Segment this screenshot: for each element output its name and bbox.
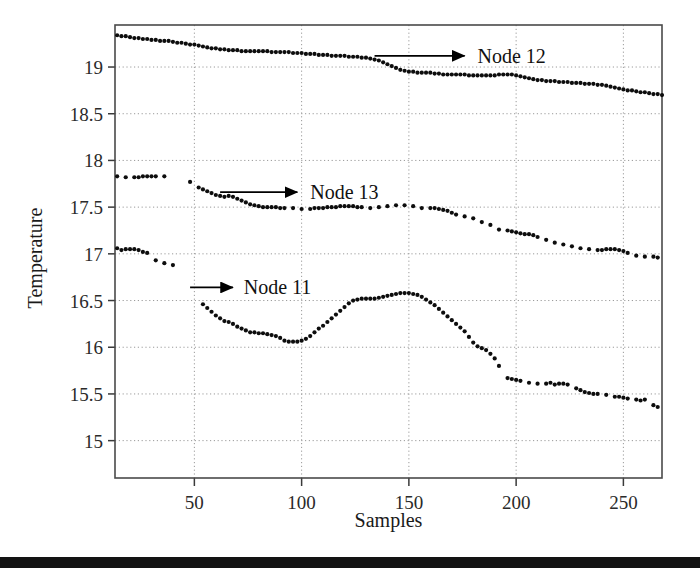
data-point <box>291 340 295 344</box>
data-point <box>463 329 467 333</box>
data-point <box>411 292 415 296</box>
data-point <box>300 51 304 55</box>
data-point <box>347 204 351 208</box>
data-point <box>291 206 295 210</box>
data-point <box>197 185 201 189</box>
data-point <box>518 74 522 78</box>
data-point <box>497 72 501 76</box>
data-point <box>634 397 638 401</box>
data-point <box>531 233 535 237</box>
data-point <box>656 92 660 96</box>
data-point <box>308 52 312 56</box>
data-point <box>531 77 535 81</box>
data-point <box>450 211 454 215</box>
data-point <box>450 72 454 76</box>
data-point <box>128 247 132 251</box>
data-point <box>510 377 514 381</box>
data-point <box>578 81 582 85</box>
data-point <box>463 214 467 218</box>
data-point <box>626 397 630 401</box>
x-tick-label: 50 <box>185 492 204 513</box>
data-point <box>480 220 484 224</box>
data-point <box>390 64 394 68</box>
data-point <box>638 90 642 94</box>
data-point <box>600 248 604 252</box>
data-point <box>265 205 269 209</box>
data-point <box>604 393 608 397</box>
data-point <box>428 71 432 75</box>
data-point <box>124 175 128 179</box>
data-point <box>540 78 544 82</box>
data-point <box>330 205 334 209</box>
data-point <box>274 205 278 209</box>
data-point <box>231 322 235 326</box>
data-point <box>566 80 570 84</box>
data-point <box>334 312 338 316</box>
data-point <box>222 319 226 323</box>
x-tick-label: 100 <box>287 492 316 513</box>
data-point <box>222 195 226 199</box>
data-point <box>295 340 299 344</box>
y-tick-label: 19 <box>84 57 103 78</box>
series-node-13 <box>115 174 660 259</box>
data-point <box>591 392 595 396</box>
y-tick-label: 18 <box>84 150 103 171</box>
data-point <box>377 58 381 62</box>
data-point <box>141 174 145 178</box>
data-point <box>510 72 514 76</box>
data-point <box>257 204 261 208</box>
data-point <box>321 53 325 57</box>
data-point <box>660 93 664 97</box>
data-point <box>278 50 282 54</box>
data-point <box>505 228 509 232</box>
data-point <box>475 73 479 77</box>
data-point <box>308 334 312 338</box>
data-point <box>437 307 441 311</box>
data-point <box>402 69 406 73</box>
data-point <box>342 204 346 208</box>
data-point <box>553 383 557 387</box>
footer-rule <box>0 557 700 568</box>
data-point <box>518 231 522 235</box>
series-node-11 <box>115 246 660 409</box>
data-point <box>162 39 166 43</box>
data-point <box>257 49 261 53</box>
data-point <box>407 70 411 74</box>
data-point <box>621 396 625 400</box>
data-point <box>604 247 608 251</box>
data-point <box>578 246 582 250</box>
data-point <box>445 72 449 76</box>
data-point <box>261 331 265 335</box>
data-point <box>351 298 355 302</box>
data-point <box>553 79 557 83</box>
data-point <box>570 244 574 248</box>
data-point <box>441 72 445 76</box>
data-point <box>471 73 475 77</box>
data-point <box>394 203 398 207</box>
data-point <box>467 335 471 339</box>
x-tick-label: 200 <box>502 492 531 513</box>
data-point <box>493 73 497 77</box>
data-point <box>484 348 488 352</box>
data-point <box>651 255 655 259</box>
data-point <box>385 204 389 208</box>
data-point <box>433 206 437 210</box>
data-point <box>355 205 359 209</box>
y-tick-label: 15 <box>84 431 103 452</box>
data-point <box>553 241 557 245</box>
data-point <box>119 248 123 252</box>
data-point <box>372 297 376 301</box>
data-point <box>535 382 539 386</box>
data-point <box>269 333 273 337</box>
data-point <box>325 53 329 57</box>
data-point <box>608 247 612 251</box>
data-point <box>510 229 514 233</box>
data-point <box>514 378 518 382</box>
data-point <box>643 90 647 94</box>
data-point <box>596 83 600 87</box>
data-point <box>128 35 132 39</box>
data-point <box>574 386 578 390</box>
data-point <box>205 45 209 49</box>
data-point <box>124 34 128 38</box>
data-point <box>252 49 256 53</box>
